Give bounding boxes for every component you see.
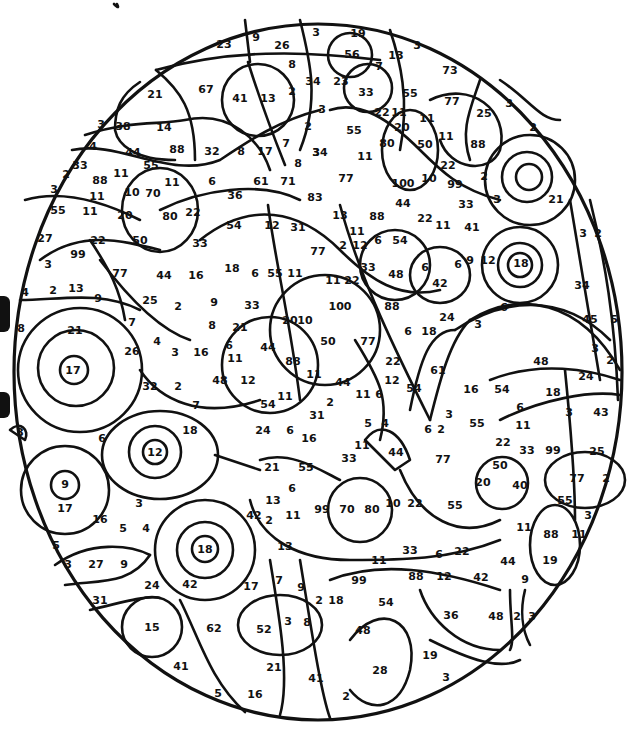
region-number: 4	[381, 417, 389, 430]
region-number: 88	[169, 143, 184, 156]
region-number: 25	[589, 445, 604, 458]
region-number: 24	[578, 370, 594, 383]
region-number: 99	[70, 248, 85, 261]
region-number: 11	[227, 352, 242, 365]
region-number: 88	[384, 300, 399, 313]
region-number: 15	[144, 621, 159, 634]
region-number: 2	[602, 472, 610, 485]
region-number: 33	[72, 159, 87, 172]
region-line	[330, 107, 500, 200]
region-number: 55	[557, 494, 572, 507]
region-number: 45	[582, 313, 597, 326]
region-number: 17	[57, 502, 72, 515]
region-number: 55	[346, 124, 361, 137]
region-number: 20	[394, 121, 410, 134]
region-number: 13	[388, 49, 403, 62]
region-number: 22	[454, 545, 469, 558]
region-number: 11	[371, 554, 386, 567]
region-number: 3	[171, 346, 179, 359]
region-number: 11	[306, 368, 321, 381]
region-number: 33	[360, 261, 375, 274]
region-number: 100	[392, 177, 415, 190]
region-number: 83	[307, 191, 322, 204]
region-number: 6	[404, 325, 412, 338]
region-number: 42	[182, 578, 197, 591]
region-number: 80	[379, 137, 395, 150]
region-number: 12	[436, 570, 451, 583]
region-number: 11	[354, 439, 369, 452]
region-number: 50	[320, 335, 336, 348]
region-number: 50	[132, 234, 148, 247]
region-number: 44	[125, 146, 141, 159]
region-number: 8	[294, 157, 302, 170]
region-number: 10	[124, 186, 140, 199]
region-number: 6	[251, 267, 259, 280]
region-number: 18	[224, 262, 239, 275]
region-number: 77	[338, 172, 353, 185]
region-number: 21	[232, 321, 247, 334]
region-number: 54	[260, 398, 276, 411]
region-number: 17	[257, 145, 272, 158]
region-number: 77	[360, 335, 375, 348]
region-number: 41	[232, 92, 247, 105]
region-number: 41	[173, 660, 188, 673]
region-number: 19	[422, 649, 437, 662]
region-number: 11	[164, 176, 179, 189]
region-number: 4	[21, 286, 29, 299]
region-number: 80	[364, 503, 380, 516]
region-number: 23	[216, 38, 231, 51]
region-number: 5	[119, 522, 127, 535]
region-number: 88	[285, 355, 300, 368]
region-number: 22	[440, 159, 455, 172]
region-number: 9	[120, 558, 128, 571]
region-number: 27	[88, 558, 103, 571]
region-number: 2	[437, 423, 445, 436]
region-number: 7	[275, 574, 283, 587]
region-number: 2	[265, 514, 273, 527]
region-number: 2	[174, 380, 182, 393]
region-number: 3	[579, 227, 587, 240]
region-number: 9	[61, 478, 69, 491]
region-number: 21	[264, 461, 279, 474]
region-number: 31	[92, 594, 107, 607]
region-number: 9	[94, 292, 102, 305]
region-number: 25	[476, 107, 491, 120]
region-number: 18	[513, 257, 528, 270]
region-number: 55	[402, 87, 417, 100]
region-number: 20	[282, 314, 298, 327]
region-number: 24	[439, 311, 455, 324]
region-number: 11	[113, 167, 128, 180]
region-number: 6	[516, 401, 524, 414]
region-number: 11	[349, 225, 364, 238]
region-number: 7	[282, 137, 290, 150]
region-number: 73	[442, 64, 457, 77]
region-number: 18	[197, 543, 212, 556]
region-number: 11	[285, 509, 300, 522]
region-number: 11	[515, 419, 530, 432]
region-number: 22	[374, 106, 389, 119]
region-number: 5	[364, 417, 372, 430]
region-number: 33	[341, 452, 356, 465]
region-number: 43	[593, 406, 608, 419]
region-number: 32	[204, 145, 219, 158]
region-number: 33	[244, 299, 259, 312]
region-number: 3	[474, 318, 482, 331]
region-number: 2	[606, 354, 614, 367]
region-number: 32	[142, 380, 157, 393]
region-number: 4	[89, 140, 97, 153]
region-number: 70	[145, 187, 161, 200]
region-number: 33	[458, 198, 473, 211]
region-number: 77	[310, 245, 325, 258]
region-number: 7	[128, 316, 136, 329]
region-number: 7	[375, 60, 383, 73]
region-number: 11	[325, 274, 340, 287]
region-number: 13	[260, 92, 275, 105]
region-number: 4	[142, 522, 150, 535]
region-number: 2	[594, 227, 602, 240]
region-number: 9	[297, 581, 305, 594]
region-number: 8	[208, 319, 216, 332]
region-number: 16	[463, 383, 479, 396]
region-line	[90, 240, 125, 320]
region-number: 42	[246, 509, 261, 522]
region-number: 54	[378, 596, 394, 609]
